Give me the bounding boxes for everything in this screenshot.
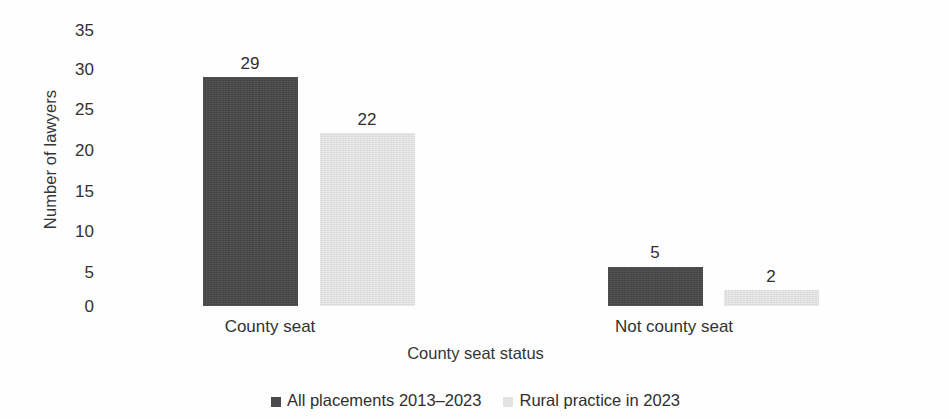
- bar-value-label-2: 2: [741, 268, 801, 285]
- y-tick-label-10: 10: [48, 223, 94, 240]
- legend-swatch-icon-dark: [271, 397, 281, 407]
- legend-label-rural-practice: Rural practice in 2023: [519, 391, 680, 410]
- y-tick-label-5: 5: [48, 264, 94, 281]
- legend-swatch-icon-light: [503, 397, 513, 407]
- bar-not-county-seat-rural-practice: [724, 290, 819, 306]
- y-tick-label-20: 20: [48, 142, 94, 159]
- bar-chart: Number of lawyers 35 30 25 20 15 10 5 0 …: [0, 0, 951, 419]
- bar-value-label-29: 29: [220, 55, 280, 72]
- y-tick-label-35: 35: [48, 22, 94, 39]
- legend-label-all-placements: All placements 2013–2023: [287, 391, 481, 410]
- x-tick-label-not-county-seat: Not county seat: [524, 317, 824, 337]
- y-tick-label-15: 15: [48, 183, 94, 200]
- bar-value-label-22: 22: [337, 111, 397, 128]
- y-tick-label-30: 30: [48, 61, 94, 78]
- plot-area: 29 22 5 2: [140, 20, 940, 306]
- chart-legend: All placements 2013–2023 Rural practice …: [0, 391, 951, 410]
- legend-item-rural-practice: Rural practice in 2023: [503, 391, 680, 410]
- y-tick-label-25: 25: [48, 101, 94, 118]
- bar-value-label-5: 5: [625, 244, 685, 261]
- legend-item-all-placements: All placements 2013–2023: [271, 391, 481, 410]
- y-tick-label-0: 0: [48, 298, 94, 315]
- bar-county-seat-rural-practice: [320, 133, 415, 307]
- x-axis-title: County seat status: [0, 344, 951, 363]
- bar-county-seat-all-placements: [203, 77, 298, 306]
- bar-not-county-seat-all-placements: [608, 267, 703, 306]
- x-tick-label-county-seat: County seat: [120, 317, 420, 337]
